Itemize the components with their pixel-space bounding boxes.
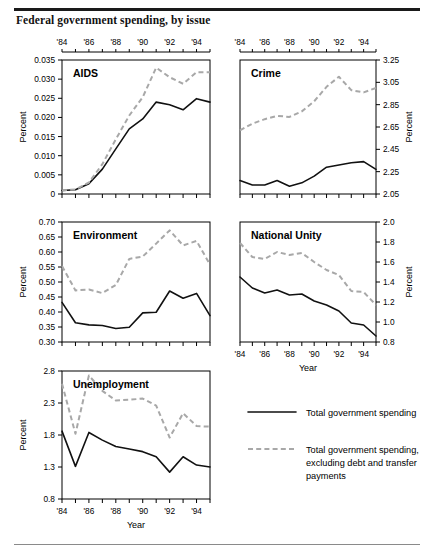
series-line-solid — [62, 431, 210, 472]
top-axis-year-label: '92 — [333, 37, 344, 47]
y-tick-label: 0.30 — [39, 337, 56, 347]
y-tick-label: 0.020 — [34, 112, 55, 122]
top-axis-year-label: '86 — [259, 37, 270, 47]
y-tick-label: 1.8 — [383, 237, 395, 247]
y-tick-label: 0.50 — [39, 277, 56, 287]
x-tick-label: '84 — [235, 349, 246, 359]
legend-label-excluding-debt-line-2: excluding debt and transfer — [306, 458, 417, 468]
top-axis-year-label: '86 — [83, 37, 94, 47]
panel-title: Unemployment — [73, 378, 149, 390]
y-tick-label: 0.025 — [34, 93, 55, 103]
y-tick-label: 0.55 — [39, 262, 56, 272]
y-tick-label: 3.25 — [383, 55, 400, 65]
y-axis-title: Percent — [404, 111, 414, 143]
x-tick-label: '94 — [358, 349, 369, 359]
panel-crime: 2.052.252.452.652.853.053.25Percent'84'8… — [235, 37, 414, 199]
y-tick-label: 3.05 — [383, 77, 400, 87]
y-tick-label: 2.3 — [43, 398, 55, 408]
y-tick-label: 2.65 — [383, 122, 400, 132]
y-tick-label: 2.05 — [383, 189, 400, 199]
top-axis-year-label: '88 — [110, 37, 121, 47]
panel-unemployment: 0.81.31.82.32.8Percent'84'86'88'90'92'94… — [18, 366, 210, 530]
x-tick-label: '92 — [164, 506, 175, 516]
y-tick-label: 2.25 — [383, 167, 400, 177]
y-tick-label: 0.70 — [39, 217, 56, 227]
top-axis-year-label: '94 — [358, 37, 369, 47]
series-line-solid — [62, 291, 210, 329]
top-axis-year-label: '90 — [309, 37, 320, 47]
y-axis-title: Percent — [18, 266, 28, 298]
x-tick-label: '84 — [57, 506, 68, 516]
x-axis-title: Year — [127, 520, 145, 530]
y-tick-label: 0.015 — [34, 132, 55, 142]
panel-aids: 00.0050.0100.0150.0200.0250.0300.035Perc… — [18, 37, 210, 199]
x-tick-label: '88 — [110, 506, 121, 516]
y-tick-label: 0.8 — [383, 337, 395, 347]
x-tick-label: '86 — [259, 349, 270, 359]
y-tick-label: 0.030 — [34, 74, 55, 84]
y-tick-label: 2.8 — [43, 366, 55, 376]
y-tick-label: 2.0 — [383, 217, 395, 227]
top-axis-year-label: '84 — [57, 37, 68, 47]
y-tick-label: 1.0 — [383, 317, 395, 327]
panel-title: National Unity — [251, 229, 322, 241]
panel-title: AIDS — [73, 67, 98, 79]
legend-label-total-spending: Total government spending — [306, 408, 416, 418]
panel-environment: 0.300.350.400.450.500.550.600.650.70Perc… — [18, 217, 210, 347]
x-tick-label: '92 — [333, 349, 344, 359]
y-axis-title: Percent — [404, 266, 414, 298]
y-tick-label: 0.45 — [39, 292, 56, 302]
top-axis-year-label: '88 — [284, 37, 295, 47]
series-line-solid — [62, 99, 210, 191]
panel-national-unity: 0.81.01.21.41.61.82.0Percent'84'86'88'90… — [235, 217, 414, 373]
top-axis-year-label: '90 — [137, 37, 148, 47]
y-tick-label: 1.3 — [43, 462, 55, 472]
y-tick-label: 0.035 — [34, 55, 55, 65]
y-tick-label: 1.4 — [383, 277, 395, 287]
multi-panel-line-chart: 00.0050.0100.0150.0200.0250.0300.035Perc… — [0, 0, 434, 559]
y-tick-label: 0.35 — [39, 322, 56, 332]
chart-stage: 00.0050.0100.0150.0200.0250.0300.035Perc… — [0, 0, 434, 559]
y-axis-title: Percent — [18, 111, 28, 143]
panel-title: Crime — [251, 67, 281, 79]
series-line-dashed — [240, 77, 376, 131]
series-line-dashed — [62, 68, 210, 191]
x-tick-label: '88 — [284, 349, 295, 359]
panel-title: Environment — [73, 229, 138, 241]
x-axis-title: Year — [299, 363, 317, 373]
plot-frame — [62, 371, 210, 499]
series-line-dashed — [240, 243, 376, 305]
series-line-solid — [240, 162, 376, 187]
y-tick-label: 1.8 — [43, 430, 55, 440]
legend-label-excluding-debt-line-1: Total government spending, — [306, 445, 419, 455]
top-axis-year-label: '94 — [191, 37, 202, 47]
y-tick-label: 0.65 — [39, 232, 56, 242]
x-tick-label: '90 — [137, 506, 148, 516]
series-line-solid — [240, 277, 376, 336]
y-tick-label: 0.40 — [39, 307, 56, 317]
x-tick-label: '86 — [83, 506, 94, 516]
legend-label-excluding-debt-line-3: payments — [306, 471, 346, 481]
y-tick-label: 0.8 — [43, 494, 55, 504]
x-tick-label: '90 — [309, 349, 320, 359]
x-tick-label: '94 — [191, 506, 202, 516]
y-tick-label: 0 — [50, 189, 55, 199]
top-axis-year-label: '92 — [164, 37, 175, 47]
chart-legend: Total government spendingTotal governmen… — [248, 408, 419, 481]
y-tick-label: 0.60 — [39, 247, 56, 257]
top-axis-year-label: '84 — [235, 37, 246, 47]
y-tick-label: 0.005 — [34, 170, 55, 180]
y-tick-label: 1.6 — [383, 257, 395, 267]
y-axis-title: Percent — [18, 419, 28, 451]
y-tick-label: 1.2 — [383, 297, 395, 307]
y-tick-label: 0.010 — [34, 151, 55, 161]
y-tick-label: 2.85 — [383, 100, 400, 110]
y-tick-label: 2.45 — [383, 144, 400, 154]
plot-frame — [240, 60, 376, 194]
